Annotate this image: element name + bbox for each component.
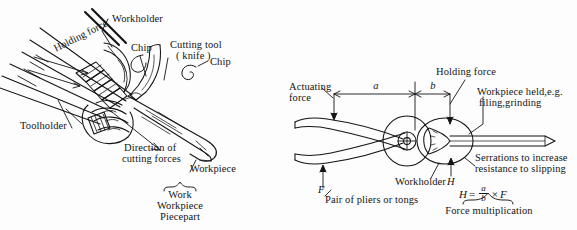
label-workpiece-held-line2: filing,grinding (479, 97, 541, 109)
force-multiplication-formula: H = a b × F (459, 184, 507, 203)
label-force-multiplication: Force multiplication (437, 205, 541, 217)
label-direction-line2: cutting forces (122, 153, 181, 165)
label-toolholder: Toolholder (20, 120, 67, 132)
hand-knife-illustration (0, 0, 290, 230)
figure-root: Workholder Chip Cutting tool ( knife ) C… (0, 0, 577, 230)
label-brace-work: Work (150, 189, 210, 201)
label-dimension-b: b (421, 80, 445, 92)
label-pair-of-pliers: Pair of pliers or tongs (325, 194, 418, 206)
formula-lhs: H (459, 188, 467, 200)
label-chip-top: Chip (131, 42, 152, 54)
label-workholder-symbol: H (447, 176, 455, 188)
right-figure-panel: Actuating force a b Holding force Workpi… (287, 0, 577, 230)
formula-rhs: F (500, 188, 507, 200)
label-workpiece-held-line1: Workpiece held,e.g. (477, 86, 563, 98)
label-workholder: Workholder (395, 176, 446, 188)
label-chip-right: Chip (210, 56, 231, 68)
label-workpiece: Workpiece (190, 163, 236, 175)
label-holding-force: Holding force (436, 66, 496, 78)
left-figure-panel: Workholder Chip Cutting tool ( knife ) C… (0, 0, 290, 230)
label-serrations-line2: resistance to slipping (475, 163, 566, 175)
label-workholder: Workholder (112, 13, 163, 25)
formula-times: × (492, 188, 498, 200)
label-cutting-tool-line1: Cutting tool (170, 39, 222, 51)
label-brace-piecepart: Piecepart (150, 211, 210, 223)
label-actuating-force-line2: force (289, 92, 311, 104)
label-dimension-a: a (364, 80, 388, 92)
label-direction-line1: Direction of (124, 142, 176, 154)
formula-numerator: a (479, 184, 488, 193)
formula-fraction: a b (479, 184, 488, 203)
label-serrations-line1: Serrations to increase (475, 152, 568, 164)
label-force-symbol: F (318, 184, 325, 196)
formula-equals: = (469, 188, 475, 200)
label-cutting-tool-line2: ( knife ) (176, 50, 211, 62)
label-brace-workpiece: Workpiece (150, 200, 210, 212)
label-actuating-force-line1: Actuating (289, 81, 331, 93)
formula-denominator: b (479, 194, 488, 203)
